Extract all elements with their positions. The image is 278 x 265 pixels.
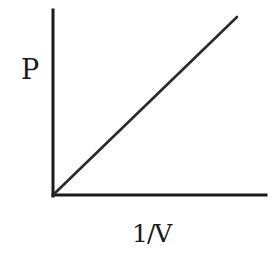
data-line xyxy=(54,17,237,194)
chart-container: P 1/V xyxy=(0,0,278,265)
y-axis-label: P xyxy=(21,56,39,83)
x-axis-label: 1/V xyxy=(132,221,171,246)
